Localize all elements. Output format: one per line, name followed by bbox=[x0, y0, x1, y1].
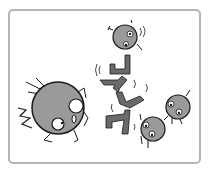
bottom-ball-character bbox=[140, 114, 165, 148]
right-ball-character bbox=[164, 90, 190, 124]
illustration bbox=[0, 0, 210, 173]
bracket-chain bbox=[100, 55, 144, 134]
top-ball-character bbox=[108, 20, 145, 50]
big-ball-character bbox=[18, 78, 88, 142]
